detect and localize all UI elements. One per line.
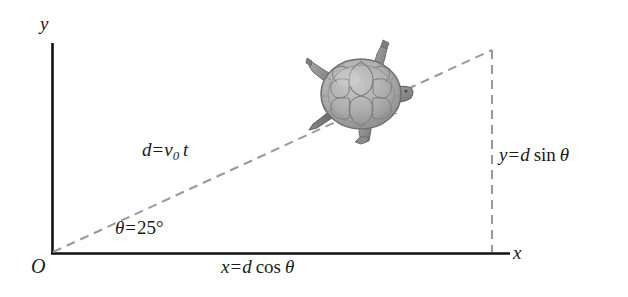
theta-angle-label: θ=25° bbox=[115, 218, 164, 237]
y-component-theta-symbol: θ bbox=[560, 144, 569, 165]
x-component-equals-sign: = bbox=[229, 256, 242, 277]
displacement-equals-sign: = bbox=[152, 139, 165, 160]
x-component-label: x=dcosθ bbox=[221, 257, 294, 276]
time-var: t bbox=[183, 139, 188, 160]
turtle-icon bbox=[303, 38, 427, 146]
displacement-equation-label: d=v0t bbox=[142, 140, 188, 163]
initial-velocity-subscript: 0 bbox=[173, 148, 179, 163]
x-axis-label: x bbox=[513, 243, 521, 262]
theta-symbol: θ bbox=[115, 217, 124, 238]
turtle-shell bbox=[321, 59, 401, 130]
theta-equals-sign: = bbox=[124, 217, 137, 238]
cos-function-name: cos bbox=[256, 256, 281, 277]
origin-label: O bbox=[31, 256, 45, 276]
theta-value: 25° bbox=[137, 217, 164, 238]
y-component-label: y=dsinθ bbox=[499, 145, 569, 164]
y-axis-label: y bbox=[40, 14, 48, 33]
y-component-d-var: d bbox=[520, 144, 530, 165]
physics-diagram-figure: y x O d=v0t θ=25° y=dsinθ x=dcosθ bbox=[0, 0, 628, 297]
sin-function-name: sin bbox=[534, 144, 556, 165]
initial-velocity-var: v bbox=[164, 139, 172, 160]
y-component-equals-sign: = bbox=[507, 144, 520, 165]
x-component-theta-symbol: θ bbox=[285, 256, 294, 277]
turtle-illustration bbox=[303, 38, 427, 146]
x-component-d-var: d bbox=[242, 256, 252, 277]
displacement-var-d: d bbox=[142, 139, 152, 160]
